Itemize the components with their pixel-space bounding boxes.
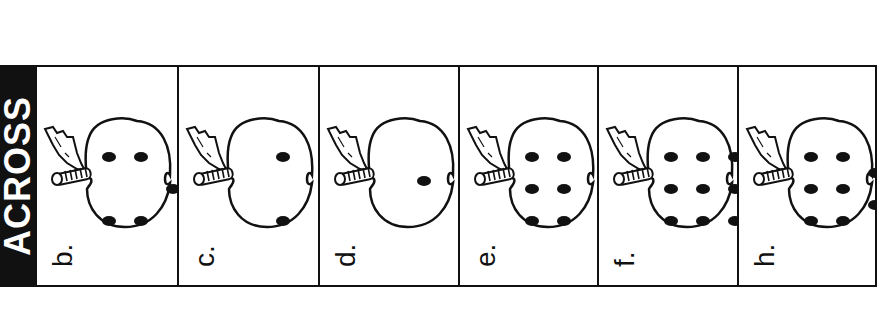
stem-icon [614,167,654,186]
panel-letter: c. [191,245,219,267]
panel-label: h. [725,244,753,267]
panel-letter: h. [751,244,779,267]
dot [804,216,818,226]
dot [525,184,539,194]
dot [836,216,850,226]
stem-icon [335,167,375,186]
apple-panel-h: h. [737,67,875,285]
leaf-icon [747,127,787,171]
panel-letter: e. [472,244,500,267]
dot [102,152,116,162]
panel-label: d. [306,244,334,267]
dot [868,200,877,210]
dot [664,152,678,162]
panel-letter: b. [49,244,77,267]
dot [804,184,818,194]
leaf-icon [45,127,85,171]
stem-icon [52,167,92,186]
leaf-icon [187,127,227,171]
stem-icon [754,167,794,186]
panel-label: e. [446,244,474,267]
dot [557,184,571,194]
dot [134,216,148,226]
dot [696,184,710,194]
dot [276,152,290,162]
panel-label: c. [165,245,193,267]
apple-panel-f: f. [597,67,737,285]
apple-panel-b: b. [35,67,177,285]
stem-icon [475,167,515,186]
dot [417,176,431,186]
dot [102,216,116,226]
dot [557,216,571,226]
dot [696,152,710,162]
dot [557,152,571,162]
panel-letter: d. [332,244,360,267]
dot [664,184,678,194]
panel-label: f. [585,251,613,267]
dot [525,152,539,162]
dot [276,216,290,226]
dot [836,184,850,194]
dot [134,152,148,162]
panel-letter: f. [611,251,639,267]
leaf-icon [607,127,647,171]
dot [804,152,818,162]
panels-row: b. c. d. e. [35,67,875,285]
dot [664,216,678,226]
apple-panel-d: d. [318,67,458,285]
across-title: ACROSS [0,96,36,256]
dot [525,216,539,226]
panel-label: b. [23,244,51,267]
leaf-icon [468,127,508,171]
stem-icon [194,167,234,186]
apple-panel-e: e. [458,67,597,285]
dot [696,216,710,226]
apple-panel-c: c. [177,67,318,285]
across-strip: ACROSS b. c. d. [0,65,877,287]
leaf-icon [328,127,368,171]
dot [836,152,850,162]
